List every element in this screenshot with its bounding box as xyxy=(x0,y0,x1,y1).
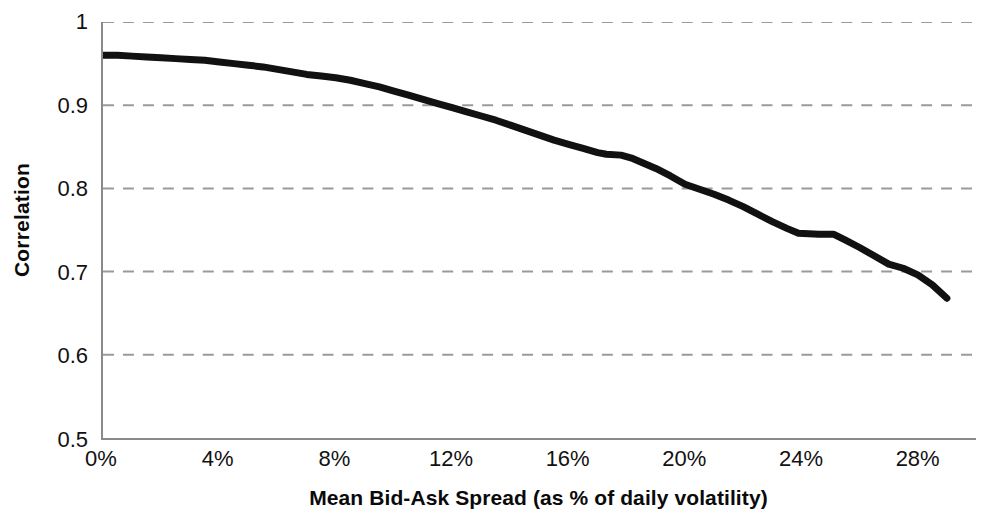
x-tick-label: 16% xyxy=(546,446,590,472)
x-tick-label: 8% xyxy=(318,446,350,472)
data-series-correlation xyxy=(103,55,947,298)
y-tick-label: 0.7 xyxy=(57,260,88,286)
y-tick-label: 0.9 xyxy=(57,93,88,119)
x-tick-label: 28% xyxy=(896,446,940,472)
series-line xyxy=(103,55,947,298)
x-tick-label: 4% xyxy=(202,446,234,472)
gridlines xyxy=(103,22,976,355)
y-tick-label: 0.6 xyxy=(57,343,88,369)
x-axis-tick-labels: 0%4%8%12%16%20%24%28% xyxy=(101,446,976,482)
y-tick-label: 1 xyxy=(76,9,88,35)
y-axis-tick-labels: 10.90.80.70.60.5 xyxy=(44,0,94,460)
y-axis-title-label: Correlation xyxy=(10,163,34,277)
chart-canvas xyxy=(103,22,976,438)
x-tick-label: 20% xyxy=(662,446,706,472)
x-tick-label: 0% xyxy=(85,446,117,472)
y-axis-title: Correlation xyxy=(0,0,44,440)
chart-figure: Correlation 10.90.80.70.60.5 0%4%8%12%16… xyxy=(0,0,989,528)
y-tick-label: 0.5 xyxy=(57,427,88,453)
x-tick-label: 12% xyxy=(429,446,473,472)
x-axis-title: Mean Bid-Ask Spread (as % of daily volat… xyxy=(101,486,976,510)
x-tick-label: 24% xyxy=(779,446,823,472)
y-tick-label: 0.8 xyxy=(57,176,88,202)
plot-area xyxy=(101,22,976,440)
